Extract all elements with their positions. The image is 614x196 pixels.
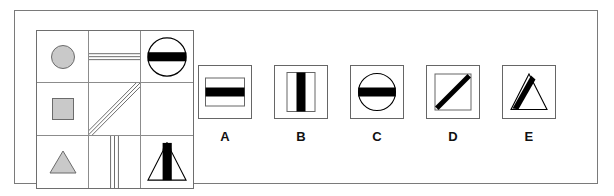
gray-triangle-shape xyxy=(49,150,77,174)
matrix-cell-r2c3-content xyxy=(141,83,193,134)
matrix-cell-r1c2-content xyxy=(89,31,140,82)
matrix-grid xyxy=(36,30,194,189)
horizontal-lines-icon xyxy=(89,31,140,82)
option-a[interactable]: A xyxy=(198,65,252,144)
matrix-cell-r2c2 xyxy=(89,83,141,135)
matrix-cell-r2c1-content xyxy=(37,83,88,134)
matrix-cell-r3c3 xyxy=(141,136,193,188)
option-e-label: E xyxy=(502,130,556,144)
triangle-with-vertical-bar-icon xyxy=(145,141,189,183)
matrix-cell-r3c1 xyxy=(37,136,89,188)
matrix-cell-r3c2-content xyxy=(89,136,140,188)
diagonal-lines-icon xyxy=(89,83,140,134)
option-e[interactable]: E xyxy=(502,65,556,144)
matrix-cell-r3c1-content xyxy=(37,136,88,188)
matrix-cell-r3c2 xyxy=(89,136,141,188)
matrix-cell-r1c2 xyxy=(89,31,141,83)
option-a-label: A xyxy=(198,130,252,144)
matrix-cell-r1c3 xyxy=(141,31,193,83)
option-a-box[interactable] xyxy=(198,65,252,119)
option-d-box[interactable] xyxy=(426,65,480,119)
matrix-cell-r2c3-missing xyxy=(141,83,193,135)
option-c-box[interactable] xyxy=(350,65,404,119)
option-c[interactable]: C xyxy=(350,65,404,144)
matrix-cell-r1c1-content xyxy=(37,31,88,82)
triangle-with-diagonal-bar-icon xyxy=(508,71,550,113)
option-c-label: C xyxy=(350,130,404,144)
option-b-box[interactable] xyxy=(274,65,328,119)
option-d-label: D xyxy=(426,130,480,144)
rectangle-with-horizontal-bar-icon xyxy=(204,71,246,113)
matrix-cell-r1c3-content xyxy=(141,31,193,82)
gray-square-shape xyxy=(52,98,74,120)
matrix-cell-r2c1 xyxy=(37,83,89,135)
matrix-reasoning-item: A B C D xyxy=(0,0,614,196)
matrix-cell-r3c3-content xyxy=(141,136,193,188)
gray-circle-shape xyxy=(51,45,75,69)
matrix-cell-r1c1 xyxy=(37,31,89,83)
square-with-diagonal-bar-icon xyxy=(432,71,474,113)
option-b-label: B xyxy=(274,130,328,144)
option-d[interactable]: D xyxy=(426,65,480,144)
matrix-cell-r2c2-content xyxy=(89,83,140,134)
vertical-lines-icon xyxy=(89,136,140,188)
circle-with-horizontal-bar-icon xyxy=(356,71,398,113)
circle-with-horizontal-bar-icon xyxy=(145,36,189,78)
option-e-box[interactable] xyxy=(502,65,556,119)
rectangle-with-vertical-bar-icon xyxy=(280,71,322,113)
option-b[interactable]: B xyxy=(274,65,328,144)
